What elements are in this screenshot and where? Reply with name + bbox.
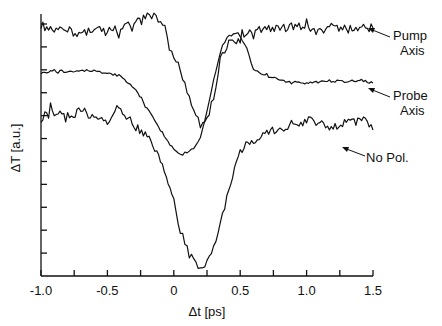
x-tick-label: 1.0 [298, 283, 316, 298]
x-tick-label: -1.0 [30, 283, 52, 298]
x-tick-label: -0.5 [96, 283, 118, 298]
chart: -1.0-0.500.51.01.5 Δt [ps] ΔT [a.u.] Pum… [0, 0, 442, 326]
y-ticks [41, 24, 47, 253]
x-tick-label: 1.5 [364, 283, 382, 298]
annotation-no-pol: No Pol. [342, 147, 409, 165]
x-tick-label: 0 [170, 283, 177, 298]
annotation-pump-axis: Pump Axis [368, 28, 427, 58]
arrowhead-nopol-icon [342, 147, 349, 152]
label-probe-axis: Axis [400, 103, 425, 118]
x-axis-title: Δt [ps] [189, 304, 226, 319]
series-line-probe-axis [41, 33, 373, 155]
x-ticks [41, 270, 373, 276]
annotation-probe-axis: Probe Axis [368, 88, 428, 118]
arrowhead-probe-icon [368, 88, 375, 93]
label-probe: Probe [393, 88, 428, 103]
series-lines [41, 13, 373, 268]
label-pump: Pump [393, 28, 427, 43]
x-tick-label: 0.5 [231, 283, 249, 298]
label-no-pol: No Pol. [366, 150, 409, 165]
y-axis-title: ΔT [a.u.] [8, 124, 23, 173]
axes [41, 14, 373, 276]
x-tick-labels: -1.0-0.500.51.01.5 [30, 283, 382, 298]
series-line-no-pol [41, 103, 373, 269]
label-pump-axis: Axis [400, 43, 425, 58]
